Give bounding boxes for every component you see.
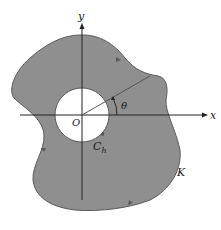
- x-axis-arrow-icon: [202, 113, 208, 118]
- region-k: [12, 35, 180, 211]
- angle-label: θ: [121, 100, 127, 111]
- x-axis-label: x: [210, 109, 217, 122]
- y-axis-arrow-icon: [80, 23, 85, 29]
- y-axis-label: y: [77, 10, 85, 23]
- inner-contour-subscript: h: [101, 146, 106, 155]
- contour-diagram: y x O θ Ch K: [0, 0, 221, 230]
- origin-label: O: [72, 117, 80, 128]
- outer-contour-label: K: [176, 166, 186, 179]
